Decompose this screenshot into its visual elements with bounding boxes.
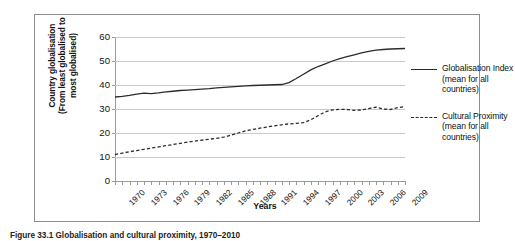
figure-caption: Figure 33.1 Globalisation and cultural p… [10, 231, 480, 241]
x-tick-mark [296, 181, 297, 185]
x-tick-mark [173, 181, 174, 185]
y-tick-label: 10 [70, 152, 110, 162]
x-tick-mark [289, 181, 290, 185]
x-tick-mark [347, 181, 348, 185]
x-tick-mark [209, 181, 210, 185]
x-tick-mark [325, 181, 326, 185]
legend-label-globalisation-index: Globalisation Index (mean for all countr… [442, 63, 515, 95]
x-tick-mark [246, 181, 247, 185]
x-tick-mark [304, 181, 305, 185]
x-tick-mark [231, 181, 232, 185]
y-tick-label: 0 [70, 176, 110, 186]
x-tick-mark [137, 181, 138, 185]
x-tick-mark [362, 181, 363, 185]
x-tick-mark [391, 181, 392, 185]
y-axis-title: Country globalisation (From least global… [47, 0, 78, 141]
x-tick-mark [311, 181, 312, 185]
x-tick-mark [151, 181, 152, 185]
plot-area: 0102030405060 19701973197619791982198519… [115, 37, 405, 181]
x-tick-mark [180, 181, 181, 185]
y-tick-label: 40 [70, 80, 110, 90]
x-tick-mark [188, 181, 189, 185]
x-axis-title: Years [185, 201, 345, 211]
x-tick-mark [195, 181, 196, 185]
x-tick-mark [166, 181, 167, 185]
x-tick-mark [144, 181, 145, 185]
y-tick-label: 30 [70, 104, 110, 114]
x-tick-mark [282, 181, 283, 185]
solid-line-icon [411, 65, 437, 75]
x-tick-mark [333, 181, 334, 185]
chart-legend: Globalisation Index (mean for all countr… [411, 63, 515, 159]
y-tick-label: 60 [70, 32, 110, 42]
x-tick-mark [122, 181, 123, 185]
x-tick-label: 1970 [127, 188, 146, 207]
x-tick-mark [202, 181, 203, 185]
x-tick-label: 2003 [367, 188, 386, 207]
x-tick-mark [369, 181, 370, 185]
dashed-line-icon [411, 113, 437, 123]
x-tick-mark [224, 181, 225, 185]
legend-item-globalisation-index: Globalisation Index (mean for all countr… [411, 63, 515, 95]
x-tick-mark [253, 181, 254, 185]
x-tick-label: 2006 [388, 188, 407, 207]
x-tick-label: 2009 [410, 188, 429, 207]
x-tick-mark [130, 181, 131, 185]
x-tick-label: 1973 [149, 188, 168, 207]
legend-label-cultural-proximity: Cultural Proximity (mean for all countri… [442, 111, 515, 143]
legend-item-cultural-proximity: Cultural Proximity (mean for all countri… [411, 111, 515, 143]
x-tick-mark [405, 181, 406, 185]
x-tick-mark [376, 181, 377, 185]
x-tick-mark [354, 181, 355, 185]
y-tick-label: 50 [70, 56, 110, 66]
x-tick-mark [115, 181, 116, 185]
x-tick-mark [267, 181, 268, 185]
x-tick-label: 2000 [345, 188, 364, 207]
chart-frame: Country globalisation (From least global… [34, 14, 480, 222]
x-tick-mark [318, 181, 319, 185]
x-tick-mark [383, 181, 384, 185]
series-globalisation-index [115, 49, 405, 97]
series-cultural-proximity [115, 107, 405, 155]
x-tick-mark [340, 181, 341, 185]
x-tick-mark [398, 181, 399, 185]
x-tick-mark [260, 181, 261, 185]
x-tick-mark [238, 181, 239, 185]
x-tick-mark [275, 181, 276, 185]
x-tick-mark [159, 181, 160, 185]
x-tick-mark [217, 181, 218, 185]
series-lines [115, 37, 405, 181]
y-tick-label: 20 [70, 128, 110, 138]
